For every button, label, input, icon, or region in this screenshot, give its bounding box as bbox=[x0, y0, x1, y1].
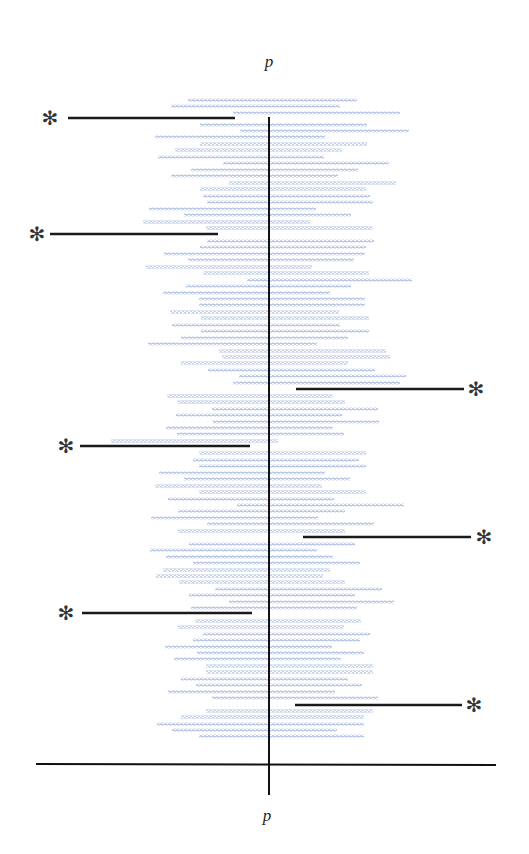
study-row bbox=[207, 523, 374, 526]
study-row bbox=[200, 124, 367, 127]
study-row bbox=[200, 246, 366, 249]
study-row bbox=[203, 195, 370, 198]
study-row bbox=[178, 401, 345, 404]
study-rows bbox=[111, 99, 412, 738]
study-row bbox=[240, 130, 409, 133]
study-row bbox=[212, 408, 378, 411]
horizontal-axis bbox=[36, 764, 496, 765]
study-row bbox=[172, 729, 337, 732]
study-row bbox=[237, 504, 404, 507]
study-row bbox=[191, 607, 357, 610]
asterisk-icon: ✻ bbox=[468, 379, 485, 399]
study-row bbox=[199, 735, 364, 738]
study-row bbox=[167, 395, 333, 398]
study-row bbox=[215, 588, 382, 591]
outlier-markers bbox=[50, 118, 471, 705]
study-row bbox=[207, 240, 374, 243]
study-row bbox=[171, 105, 340, 108]
study-row bbox=[111, 440, 278, 443]
study-row bbox=[201, 317, 369, 320]
study-row bbox=[163, 292, 330, 295]
study-row bbox=[146, 266, 312, 269]
study-row bbox=[177, 433, 344, 436]
study-row bbox=[199, 452, 366, 455]
study-row bbox=[155, 136, 325, 139]
study-row bbox=[149, 208, 316, 211]
study-row bbox=[189, 543, 355, 546]
study-row bbox=[188, 99, 357, 102]
study-row bbox=[159, 472, 325, 475]
study-row bbox=[203, 633, 370, 636]
study-row bbox=[193, 562, 360, 565]
study-row bbox=[148, 343, 317, 346]
asterisk-icon: ✻ bbox=[466, 695, 483, 715]
asterisk-icon: ✻ bbox=[58, 603, 75, 623]
study-row bbox=[206, 671, 373, 674]
funnel-diagram bbox=[0, 0, 529, 854]
study-row bbox=[195, 620, 361, 623]
study-row bbox=[199, 465, 366, 468]
study-row bbox=[233, 112, 400, 115]
study-row bbox=[200, 188, 366, 191]
study-row bbox=[199, 304, 365, 307]
bottom-axis-label: p bbox=[263, 806, 272, 826]
study-row bbox=[155, 485, 322, 488]
study-row bbox=[208, 369, 375, 372]
study-row bbox=[196, 684, 362, 687]
study-row bbox=[174, 658, 341, 661]
study-row bbox=[233, 382, 400, 385]
study-row bbox=[213, 421, 379, 424]
study-row bbox=[212, 697, 378, 700]
study-row bbox=[181, 678, 348, 681]
study-row bbox=[222, 356, 390, 359]
study-row bbox=[207, 201, 373, 204]
asterisk-icon: ✻ bbox=[29, 224, 46, 244]
study-row bbox=[151, 517, 318, 520]
study-row bbox=[176, 414, 342, 417]
study-row bbox=[175, 149, 342, 152]
study-row bbox=[199, 298, 365, 301]
study-row bbox=[247, 279, 412, 282]
study-row bbox=[206, 227, 373, 230]
study-row bbox=[219, 350, 386, 353]
study-row bbox=[164, 253, 365, 256]
study-row bbox=[181, 362, 348, 365]
study-row bbox=[229, 182, 396, 185]
study-row bbox=[143, 221, 310, 224]
study-row bbox=[166, 556, 333, 559]
study-row bbox=[168, 691, 335, 694]
asterisk-icon: ✻ bbox=[42, 108, 59, 128]
study-row bbox=[206, 665, 373, 668]
asterisk-icon: ✻ bbox=[58, 436, 75, 456]
study-row bbox=[171, 175, 338, 178]
study-row bbox=[170, 311, 339, 314]
study-row bbox=[158, 156, 324, 159]
study-row bbox=[203, 272, 369, 275]
study-row bbox=[193, 639, 360, 642]
study-row bbox=[189, 594, 355, 597]
study-row bbox=[239, 375, 406, 378]
study-row bbox=[191, 169, 358, 172]
study-row bbox=[179, 581, 345, 584]
study-row bbox=[223, 162, 389, 165]
study-row bbox=[181, 337, 348, 340]
study-row bbox=[165, 646, 332, 649]
study-row bbox=[178, 530, 345, 533]
study-row bbox=[184, 478, 350, 481]
study-row bbox=[200, 143, 367, 146]
study-row bbox=[193, 459, 359, 462]
study-row bbox=[206, 710, 373, 713]
study-row bbox=[229, 601, 394, 604]
study-row bbox=[172, 324, 340, 327]
study-row bbox=[197, 652, 364, 655]
study-row bbox=[168, 498, 334, 501]
study-row bbox=[188, 259, 354, 262]
study-row bbox=[166, 427, 333, 430]
study-row bbox=[199, 491, 366, 494]
study-row bbox=[181, 716, 364, 719]
study-row bbox=[150, 549, 317, 552]
study-row bbox=[163, 569, 330, 572]
study-row bbox=[156, 575, 323, 578]
study-row bbox=[184, 214, 351, 217]
study-row bbox=[178, 626, 344, 629]
